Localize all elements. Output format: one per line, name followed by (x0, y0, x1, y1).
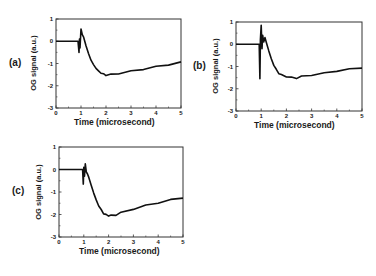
x-tick-label: 2 (107, 239, 111, 245)
y-tick-label: -2 (48, 83, 54, 89)
x-tick-label: 4 (154, 110, 158, 116)
y-tick-label: -2 (228, 86, 234, 92)
plot-frame (59, 147, 183, 237)
panel-label-c: (c) (12, 185, 24, 196)
y-tick-label: 0 (230, 41, 234, 47)
x-tick-label: 0 (54, 110, 58, 116)
plot-frame (56, 19, 181, 108)
x-tick-label: 5 (360, 113, 364, 119)
plot-b: 01234510-1-2-3 (228, 19, 365, 119)
plot-frame (236, 22, 362, 111)
x-tick-label: 3 (310, 113, 314, 119)
x-axis-label-c: Time (microsecond) (79, 246, 160, 256)
signal-line (236, 25, 362, 78)
y-tick-label: 0 (50, 38, 54, 44)
x-tick-label: 2 (104, 110, 108, 116)
y-tick-label: 0 (53, 167, 57, 173)
y-tick-label: -3 (48, 105, 54, 111)
x-tick-label: 2 (285, 113, 289, 119)
y-tick-label: -1 (51, 189, 57, 195)
signal-line (59, 164, 183, 216)
y-tick-label: -3 (228, 108, 234, 114)
y-tick-label: 1 (50, 16, 54, 22)
plot-c: 01234510-1-2-3 (51, 144, 186, 245)
chart-panel-a: 01234510-1-2-301234510-1-2-301234510-1-2… (0, 0, 376, 276)
panel-label-a: (a) (9, 57, 21, 68)
x-tick-label: 3 (132, 239, 136, 245)
x-tick-label: 0 (57, 239, 61, 245)
y-tick-label: -1 (48, 61, 54, 67)
y-tick-label: -2 (51, 212, 57, 218)
panel-label-b: (b) (193, 60, 206, 71)
x-tick-label: 1 (260, 113, 264, 119)
y-tick-label: -1 (228, 64, 234, 70)
x-tick-label: 5 (181, 239, 185, 245)
x-tick-label: 4 (335, 113, 339, 119)
x-tick-label: 1 (79, 110, 83, 116)
x-tick-label: 4 (157, 239, 161, 245)
y-tick-label: -3 (51, 234, 57, 240)
x-tick-label: 5 (179, 110, 183, 116)
x-tick-label: 1 (82, 239, 86, 245)
x-axis-label-a: Time (microsecond) (74, 117, 155, 127)
plot-a: 01234510-1-2-3 (48, 16, 184, 116)
y-axis-label-b: OG signal (a.u.) (211, 38, 220, 93)
x-axis-label-b: Time (microsecond) (254, 120, 335, 130)
y-tick-label: 1 (53, 144, 57, 150)
signal-line (56, 29, 181, 76)
x-tick-label: 0 (234, 113, 238, 119)
y-axis-label-a: OG signal (a.u.) (29, 35, 38, 90)
x-tick-label: 3 (129, 110, 133, 116)
y-axis-label-c: OG signal (a.u.) (34, 164, 43, 219)
y-tick-label: 1 (230, 19, 234, 25)
